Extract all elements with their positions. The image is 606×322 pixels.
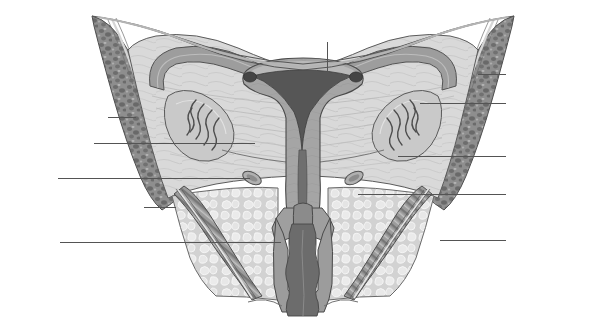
leader-ureter	[58, 178, 250, 179]
leader-pelvic-fascia	[398, 156, 506, 157]
pelvis-coronal-section-illustration	[0, 0, 606, 322]
leader-levator-ani-muscle	[358, 194, 506, 195]
vagina	[273, 218, 332, 316]
leader-loose-fat	[440, 240, 506, 241]
leader-uterine-tube	[478, 74, 506, 75]
leader-vagina	[60, 242, 281, 243]
leader-obturator-internus-muscle	[144, 207, 176, 208]
leader-side-wall-of-pelvis	[108, 117, 136, 118]
leader-broad-ligament	[94, 143, 255, 144]
leader-uterus	[327, 42, 328, 72]
anatomy-figure-page	[0, 0, 606, 322]
leader-ovary	[420, 103, 506, 104]
